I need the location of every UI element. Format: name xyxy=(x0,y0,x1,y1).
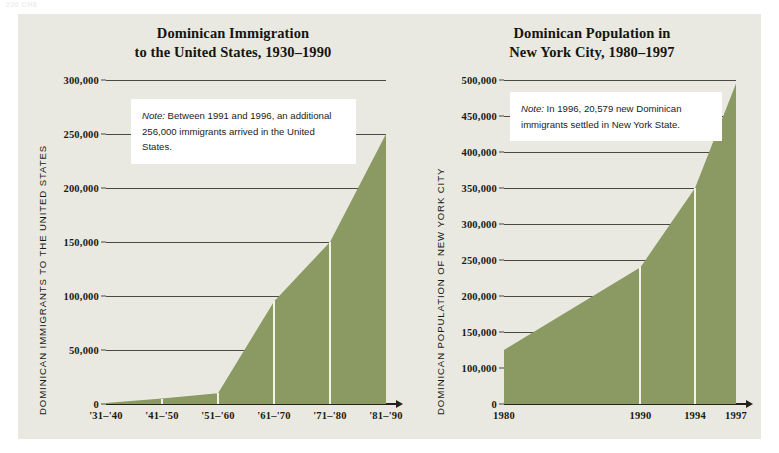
y-axis-tick-label: 150,000 xyxy=(461,327,497,338)
category-marker-line xyxy=(639,267,641,404)
x-axis-tick-label: 1980 xyxy=(493,410,515,421)
y-axis-tick-label: 0 xyxy=(94,399,99,410)
y-axis-tick-label: 50,000 xyxy=(69,345,99,356)
x-axis-tick-label: '71–'80 xyxy=(313,410,347,421)
page-header: 226 CH8 xyxy=(6,1,37,8)
y-axis-tick-label: 200,000 xyxy=(63,183,99,194)
y-axis-tick-label: 500,000 xyxy=(461,75,497,86)
category-marker-line xyxy=(273,301,275,404)
y-axis-tick-label: 150,000 xyxy=(63,237,99,248)
figure-panel: Dominican Immigration to the United Stat… xyxy=(18,14,761,439)
x-axis-tick-label: '61–'70 xyxy=(257,410,291,421)
chart-dominican-population-nyc: Dominican Population in New York City, 1… xyxy=(418,14,761,439)
y-axis-label: DOMINICAN IMMIGRANTS TO THE UNITED STATE… xyxy=(37,145,48,415)
y-axis-label: DOMINICAN POPULATION OF NEW YORK CITY xyxy=(435,168,446,415)
category-marker-line xyxy=(329,242,331,404)
chart-title-line-1: Dominican Population in xyxy=(448,24,736,43)
category-marker-line xyxy=(217,393,219,404)
x-axis-tick-label: '31–'40 xyxy=(89,410,123,421)
chart-dominican-immigration-us: Dominican Immigration to the United Stat… xyxy=(18,14,418,439)
x-axis-tick-label: '51–'60 xyxy=(201,410,235,421)
y-axis-tick-label: 0 xyxy=(492,399,497,410)
x-axis-arrow-icon xyxy=(746,400,753,408)
y-axis-tick-label: 300,000 xyxy=(63,75,99,86)
chart-note: Note: Between 1991 and 1996, an addition… xyxy=(131,99,356,164)
note-body: Between 1991 and 1996, an additional 256… xyxy=(142,110,331,152)
x-axis-tick-label: 1990 xyxy=(630,410,652,421)
y-axis-tick-label: 250,000 xyxy=(63,129,99,140)
x-axis-tick-label: 1997 xyxy=(725,410,747,421)
y-axis-tick-label: 100,000 xyxy=(63,291,99,302)
chart-title: Dominican Population in New York City, 1… xyxy=(448,24,736,62)
x-axis-tick-label: 1994 xyxy=(684,410,706,421)
note-prefix: Note: xyxy=(142,110,165,121)
x-axis-arrow-icon xyxy=(396,400,403,408)
category-marker-line xyxy=(694,188,696,404)
y-axis-tick-label: 250,000 xyxy=(461,255,497,266)
x-axis-tick-label: '41–'50 xyxy=(145,410,179,421)
x-axis-tick-label: '81–'90 xyxy=(369,410,403,421)
chart-title-line-1: Dominican Immigration xyxy=(58,24,408,43)
note-prefix: Note: xyxy=(521,103,544,114)
y-axis-tick-label: 300,000 xyxy=(461,219,497,230)
x-axis-extension xyxy=(736,403,746,405)
y-axis-tick-label: 450,000 xyxy=(461,111,497,122)
chart-title-line-2: New York City, 1980–1997 xyxy=(448,43,736,62)
note-body: In 1996, 20,579 new Dominican immigrants… xyxy=(521,103,682,130)
y-axis-tick-label: 100,000 xyxy=(461,363,497,374)
y-axis-tick-label: 350,000 xyxy=(461,183,497,194)
category-marker-line xyxy=(161,399,163,404)
chart-note: Note: In 1996, 20,579 new Dominican immi… xyxy=(510,92,722,141)
y-axis-tick-label: 400,000 xyxy=(461,147,497,158)
x-axis-extension xyxy=(386,403,396,405)
y-axis-tick-label: 200,000 xyxy=(461,291,497,302)
chart-title: Dominican Immigration to the United Stat… xyxy=(58,24,408,62)
chart-title-line-2: to the United States, 1930–1990 xyxy=(58,43,408,62)
